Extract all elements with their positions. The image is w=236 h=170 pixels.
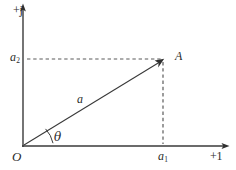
real-component-subscript: 1	[164, 155, 168, 164]
vector-magnitude-label: a	[77, 93, 83, 105]
real-component-label: a1	[158, 150, 168, 162]
imaginary-component-subscript: 2	[16, 56, 20, 65]
vertical-axis	[20, 4, 26, 148]
vertical-axis-label: +j	[13, 4, 23, 16]
diagram-canvas	[0, 0, 236, 170]
vector-a	[24, 59, 164, 145]
origin-label: O	[12, 150, 21, 163]
angle-theta-label: θ	[54, 131, 61, 143]
horizontal-axis-label: +1	[210, 150, 222, 162]
vector-diagram: +j +1 O a2 a1 A a θ	[0, 0, 236, 170]
imaginary-component-label: a2	[10, 51, 20, 63]
point-a-label: A	[175, 50, 182, 62]
vector-a-line	[24, 63, 159, 146]
